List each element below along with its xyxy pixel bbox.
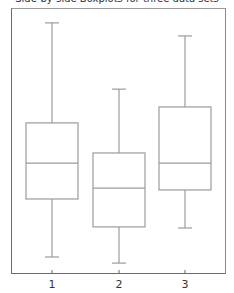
- x-tick-label-1: 1: [42, 278, 62, 291]
- iqr-box: [159, 107, 211, 190]
- box-3: [159, 36, 211, 228]
- box-2: [93, 89, 145, 263]
- boxplot-area: [0, 0, 234, 293]
- iqr-box: [93, 153, 145, 227]
- box-1: [26, 23, 78, 257]
- iqr-box: [26, 123, 78, 199]
- x-tick-label-2: 2: [109, 278, 129, 291]
- x-tick-label-3: 3: [175, 278, 195, 291]
